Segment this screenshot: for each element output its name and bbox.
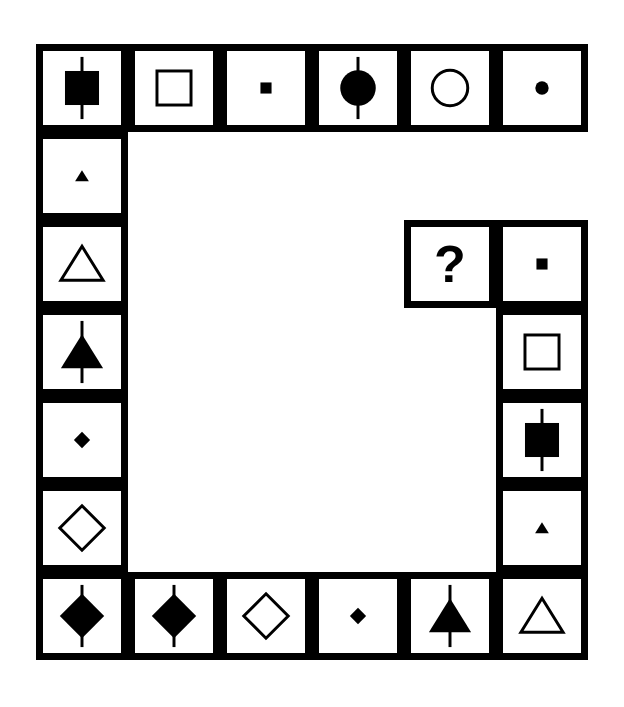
cell-panel [43, 315, 121, 389]
cell-panel [43, 227, 121, 301]
triangle-filled-with-line-icon [43, 315, 121, 389]
cell-panel [227, 579, 305, 653]
puzzle-cell-r2c1 [36, 132, 128, 220]
puzzle-cell-r7c2 [128, 572, 220, 660]
square-filled-icon [227, 51, 305, 125]
diamond-filled-with-line-icon [135, 579, 213, 653]
puzzle-cell-r7c1 [36, 572, 128, 660]
puzzle-cell-r5c6 [496, 396, 588, 484]
triangle-filled-with-line-icon [411, 579, 489, 653]
puzzle-cell-r1c6 [496, 44, 588, 132]
cell-panel [503, 315, 581, 389]
square-filled-with-line-icon [43, 51, 121, 125]
square-filled-icon [503, 227, 581, 301]
puzzle-cell-r1c1 [36, 44, 128, 132]
puzzle-cell-r3c6 [496, 220, 588, 308]
cell-panel: ? [411, 227, 489, 301]
cell-panel [503, 227, 581, 301]
triangle-filled-icon [43, 139, 121, 213]
cell-panel [135, 579, 213, 653]
cell-panel [503, 491, 581, 565]
puzzle-board: ? [36, 44, 588, 662]
puzzle-root: ? [0, 0, 624, 707]
cell-panel [319, 51, 397, 125]
puzzle-cell-r4c1 [36, 308, 128, 396]
diamond-filled-with-line-icon [43, 579, 121, 653]
question-mark: ? [434, 238, 466, 290]
puzzle-cell-r7c6 [496, 572, 588, 660]
cell-panel [503, 579, 581, 653]
cell-panel [503, 51, 581, 125]
puzzle-cell-r7c5 [404, 572, 496, 660]
puzzle-cell-r1c4 [312, 44, 404, 132]
puzzle-cell-r7c3 [220, 572, 312, 660]
cell-panel [43, 579, 121, 653]
puzzle-cell-r4c6 [496, 308, 588, 396]
circle-outline-icon [411, 51, 489, 125]
cell-panel [411, 51, 489, 125]
puzzle-cell-r5c1 [36, 396, 128, 484]
puzzle-cell-r6c6 [496, 484, 588, 572]
diamond-filled-icon [319, 579, 397, 653]
cell-panel [319, 579, 397, 653]
triangle-filled-icon [503, 491, 581, 565]
triangle-outline-icon [43, 227, 121, 301]
puzzle-cell-r7c4 [312, 572, 404, 660]
puzzle-cell-r1c5 [404, 44, 496, 132]
puzzle-cell-r3c1 [36, 220, 128, 308]
circle-filled-icon [503, 51, 581, 125]
puzzle-cell-r1c3 [220, 44, 312, 132]
cell-panel [43, 491, 121, 565]
cell-panel [503, 403, 581, 477]
cell-panel [43, 51, 121, 125]
triangle-outline-icon [503, 579, 581, 653]
diamond-outline-icon [227, 579, 305, 653]
square-outline-icon [503, 315, 581, 389]
cell-panel [227, 51, 305, 125]
puzzle-cell-r1c2 [128, 44, 220, 132]
cell-panel [43, 139, 121, 213]
square-filled-with-line-icon [503, 403, 581, 477]
puzzle-cell-r3c5[interactable]: ? [404, 220, 496, 308]
circle-filled-with-line-icon [319, 51, 397, 125]
puzzle-cell-r6c1 [36, 484, 128, 572]
cell-panel [411, 579, 489, 653]
cell-panel [43, 403, 121, 477]
diamond-filled-icon [43, 403, 121, 477]
cell-panel [135, 51, 213, 125]
square-outline-icon [135, 51, 213, 125]
diamond-outline-icon [43, 491, 121, 565]
